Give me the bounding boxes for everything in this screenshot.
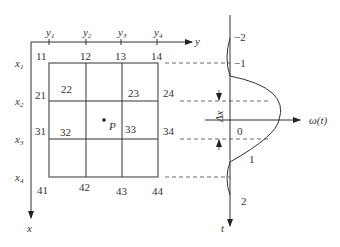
x-axis-label: x — [26, 222, 32, 234]
svg-text:43: 43 — [116, 185, 128, 197]
svg-text:1: 1 — [249, 153, 255, 165]
svg-text:−1: −1 — [234, 57, 246, 69]
svg-text:y3: y3 — [117, 26, 127, 40]
svg-text:x2: x2 — [14, 95, 24, 109]
svg-text:22: 22 — [61, 83, 72, 95]
row-ticks: x1 x2 x3 x4 — [14, 57, 24, 185]
svg-text:32: 32 — [60, 126, 71, 138]
point-p-label: P — [108, 120, 116, 132]
svg-text:41: 41 — [37, 184, 48, 196]
diagram-canvas: y x y1 y2 y3 y4 x1 x2 x3 x4 11 12 13 14 … — [0, 0, 340, 247]
svg-text:21: 21 — [35, 89, 46, 101]
svg-text:44: 44 — [152, 185, 164, 197]
t-ticks: −2 −1 0 1 2 — [234, 31, 255, 207]
svg-text:2: 2 — [241, 195, 247, 207]
omega-axis-label: ω(t) — [309, 114, 327, 127]
svg-text:x4: x4 — [14, 171, 24, 185]
svg-text:−2: −2 — [234, 31, 246, 43]
svg-text:23: 23 — [128, 87, 140, 99]
svg-text:24: 24 — [163, 87, 175, 99]
svg-text:y4: y4 — [153, 26, 163, 40]
svg-text:x3: x3 — [14, 133, 24, 147]
svg-text:11: 11 — [36, 50, 47, 62]
t-axis-label: t — [221, 222, 225, 234]
svg-text:14: 14 — [151, 50, 163, 62]
svg-text:y2: y2 — [82, 26, 92, 40]
delta-x-label: Δx — [213, 111, 225, 123]
y-axis-label: y — [194, 35, 200, 47]
svg-text:42: 42 — [79, 181, 90, 193]
svg-text:12: 12 — [80, 50, 91, 62]
svg-text:31: 31 — [35, 125, 46, 137]
svg-text:y1: y1 — [45, 26, 54, 40]
node-labels: 11 12 13 14 21 22 23 24 31 32 33 34 41 4… — [35, 50, 175, 197]
svg-text:33: 33 — [125, 123, 137, 135]
svg-text:13: 13 — [115, 50, 127, 62]
svg-text:34: 34 — [163, 125, 175, 137]
svg-text:0: 0 — [237, 125, 243, 137]
svg-text:x1: x1 — [14, 57, 23, 71]
point-p — [102, 118, 106, 122]
